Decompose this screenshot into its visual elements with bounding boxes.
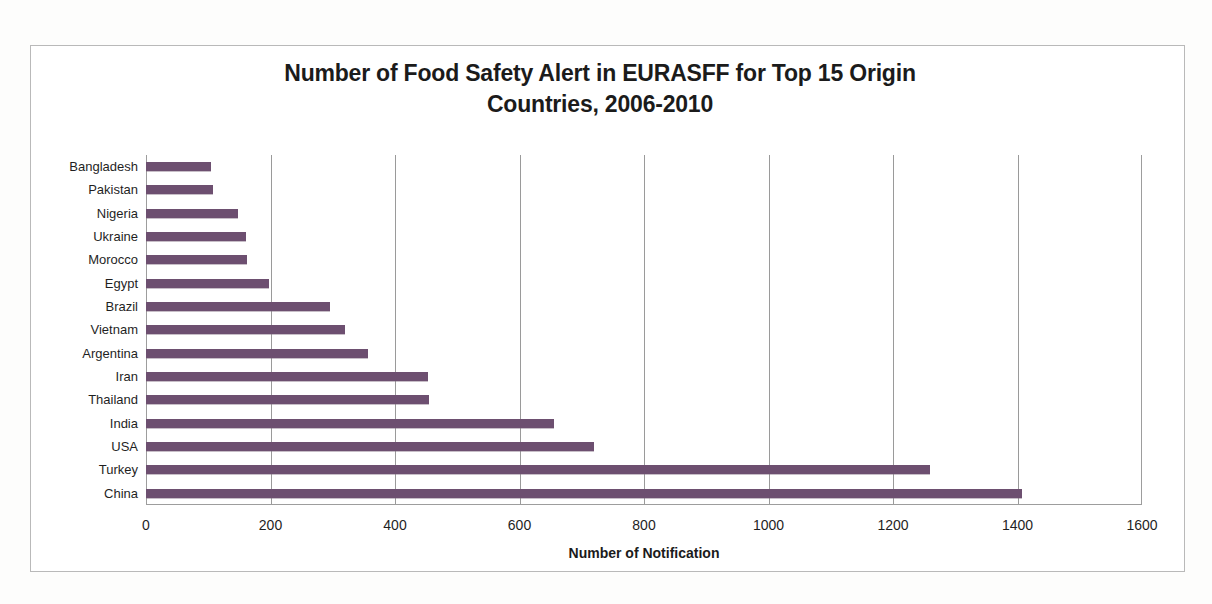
bar-row: Ukraine [146, 225, 246, 248]
x-tick-label: 600 [508, 517, 531, 533]
x-tick-label: 1400 [1002, 517, 1033, 533]
bar [146, 395, 429, 404]
x-tick-label: 800 [632, 517, 655, 533]
category-label: Iran [116, 370, 138, 383]
bar [146, 209, 238, 218]
bar-series: BangladeshPakistanNigeriaUkraineMoroccoE… [146, 155, 1142, 505]
chart-title-line-1: Number of Food Safety Alert in EURASFF f… [160, 58, 1040, 89]
plot-area: BangladeshPakistanNigeriaUkraineMoroccoE… [146, 155, 1142, 505]
x-axis-title: Number of Notification [146, 545, 1142, 561]
bar-row: Bangladesh [146, 155, 211, 178]
bar [146, 349, 368, 358]
bar [146, 279, 269, 288]
scanned-page: Number of Food Safety Alert in EURASFF f… [0, 0, 1212, 604]
chart-title: Number of Food Safety Alert in EURASFF f… [160, 58, 1040, 120]
chart-title-line-2: Countries, 2006-2010 [160, 89, 1040, 120]
bar [146, 372, 428, 381]
x-tick-label: 1200 [877, 517, 908, 533]
category-label: India [110, 417, 138, 430]
bar-row: Turkey [146, 458, 930, 481]
bar-row: Thailand [146, 388, 429, 411]
category-label: Thailand [88, 393, 138, 406]
bar-row: USA [146, 435, 594, 458]
x-tick-label: 1000 [753, 517, 784, 533]
bar [146, 255, 247, 264]
bar-row: Iran [146, 365, 428, 388]
bar-row: Argentina [146, 342, 368, 365]
bar [146, 465, 930, 474]
bar [146, 302, 330, 311]
bar [146, 185, 213, 194]
category-label: Vietnam [91, 323, 138, 336]
bar-row: Egypt [146, 272, 269, 295]
x-tick-label: 0 [142, 517, 150, 533]
category-label: Argentina [82, 347, 138, 360]
bar [146, 325, 345, 334]
bar [146, 442, 594, 451]
category-label: Brazil [105, 300, 138, 313]
bar-row: Morocco [146, 248, 247, 271]
x-tick-label: 200 [259, 517, 282, 533]
category-label: China [104, 487, 138, 500]
bar [146, 489, 1022, 498]
bar [146, 162, 211, 171]
bar-row: Pakistan [146, 178, 213, 201]
bar-row: China [146, 482, 1022, 505]
category-label: Egypt [105, 277, 138, 290]
bar-row: India [146, 412, 554, 435]
category-label: Turkey [99, 463, 138, 476]
category-label: Pakistan [88, 183, 138, 196]
category-label: USA [111, 440, 138, 453]
category-label: Ukraine [93, 230, 138, 243]
x-tick-label: 400 [383, 517, 406, 533]
bar-row: Brazil [146, 295, 330, 318]
bar-row: Nigeria [146, 202, 238, 225]
category-label: Morocco [88, 253, 138, 266]
bar [146, 419, 554, 428]
category-label: Bangladesh [69, 160, 138, 173]
category-label: Nigeria [97, 207, 138, 220]
bar [146, 232, 246, 241]
x-tick-label: 1600 [1126, 517, 1157, 533]
bar-row: Vietnam [146, 318, 345, 341]
